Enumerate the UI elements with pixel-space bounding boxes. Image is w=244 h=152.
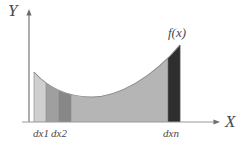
x-axis-label: X bbox=[225, 113, 235, 130]
riemann-band-dx2 bbox=[46, 40, 59, 124]
tick-label-dx1: dx1 bbox=[33, 128, 49, 139]
function-label: f(x) bbox=[168, 26, 186, 39]
tick-label-dx2: dx2 bbox=[51, 128, 67, 139]
y-axis-arrowhead bbox=[26, 9, 31, 16]
riemann-band-middle bbox=[71, 40, 168, 124]
x-axis-arrowhead bbox=[214, 119, 221, 124]
riemann-bands bbox=[34, 40, 180, 124]
riemann-band-dx3 bbox=[59, 40, 71, 124]
riemann-sum-figure: Y X f(x) dx1 dx2 dxn bbox=[0, 0, 244, 152]
riemann-band-dxn bbox=[168, 40, 180, 124]
y-axis-label: Y bbox=[8, 2, 17, 19]
tick-label-dxn: dxn bbox=[163, 128, 179, 139]
